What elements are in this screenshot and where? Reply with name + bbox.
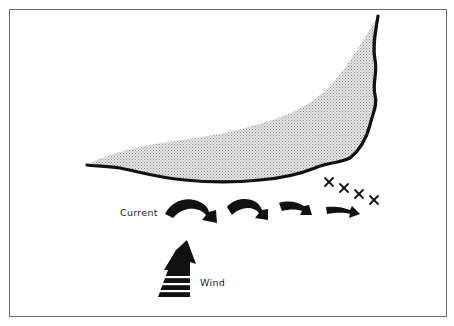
current-label: Current (120, 207, 158, 218)
wind-label: Wind (200, 277, 225, 288)
current-arrow-icon (326, 206, 360, 218)
current-arrow-icon (165, 199, 217, 223)
x-mark-icon (325, 178, 333, 186)
land-mass (87, 16, 378, 182)
diagram-canvas (0, 0, 454, 326)
x-marks (325, 178, 378, 204)
current-arrow-icon (227, 199, 268, 220)
x-mark-icon (355, 190, 363, 198)
x-mark-icon (370, 196, 378, 204)
x-mark-icon (340, 184, 348, 192)
current-arrow-icon (279, 202, 312, 215)
current-arrows (165, 199, 360, 223)
wind-arrow-icon (156, 240, 196, 297)
